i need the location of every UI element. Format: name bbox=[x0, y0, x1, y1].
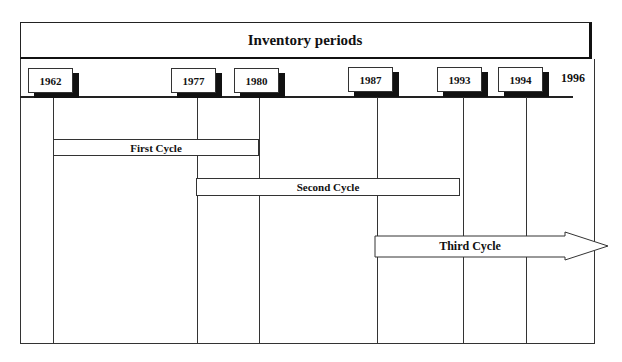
diagram-title: Inventory periods bbox=[20, 22, 592, 59]
first-cycle-bar: First Cycle bbox=[53, 139, 259, 156]
third-cycle-label: Third Cycle bbox=[375, 236, 565, 257]
period-line-1993 bbox=[463, 97, 464, 344]
period-line-1980 bbox=[259, 97, 260, 344]
year-box-1994: 1994 bbox=[498, 67, 543, 92]
period-line-1962 bbox=[53, 97, 54, 344]
year-box-1977: 1977 bbox=[171, 68, 216, 93]
period-line-1977 bbox=[197, 97, 198, 344]
year-box-1980: 1980 bbox=[234, 68, 279, 93]
period-line-1987 bbox=[377, 97, 378, 344]
timeline-axis bbox=[20, 96, 573, 98]
year-box-1993: 1993 bbox=[437, 67, 482, 92]
period-line-1994 bbox=[526, 97, 527, 344]
diagram-frame bbox=[20, 59, 595, 344]
year-box-1987: 1987 bbox=[348, 67, 393, 92]
second-cycle-bar: Second Cycle bbox=[196, 178, 460, 196]
year-box-1962: 1962 bbox=[28, 68, 73, 93]
end-year-label: 1996 bbox=[561, 71, 585, 86]
